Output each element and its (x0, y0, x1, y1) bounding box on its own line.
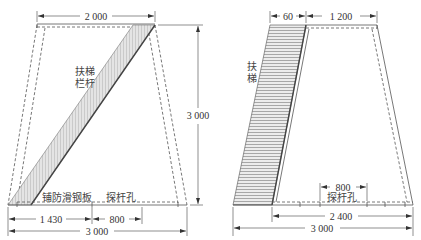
dim-60-label: 60 (283, 11, 293, 22)
dim-right-top: 60 1 200 (270, 11, 377, 24)
dim-1200-label: 1 200 (330, 11, 353, 22)
dim-left-bottom: 3 000 (9, 207, 187, 237)
right-view-right-leg (372, 25, 413, 205)
label-ladder-rail-2: 栏杆 (75, 77, 95, 89)
left-view: 2 000 3 000 1 430 800 3 000 (8, 11, 209, 237)
label-anti-slip-plate: 铺防滑钢板 (42, 191, 92, 203)
right-top-rail (306, 25, 377, 29)
dim-right-bottom-label: 3 000 (311, 223, 334, 234)
right-view: 800 探杆孔 60 1 200 2 400 3 00 (233, 11, 413, 237)
left-base (8, 202, 187, 207)
right-leg (148, 25, 187, 205)
dim-right-3000: 3 000 (233, 207, 412, 236)
dim-right-2400: 2 400 (272, 207, 413, 236)
ladder-side (233, 25, 306, 205)
label-ladder-2: 梯 (247, 72, 257, 84)
dim-left-top: 2 000 (37, 11, 155, 23)
label-probe-hole-left: 探杆孔 (106, 191, 136, 203)
dim-2400-label: 2 400 (330, 211, 353, 222)
label-ladder-1: 扶 (247, 60, 257, 72)
dim-left-top-label: 2 000 (85, 11, 108, 22)
label-probe-hole-right: 探杆孔 (327, 191, 357, 203)
dim-800-right-label: 800 (336, 182, 351, 193)
dim-left-bottom-segments: 1 430 800 (8, 207, 142, 236)
ladder-band (8, 25, 155, 205)
dim-1430-label: 1 430 (40, 214, 63, 225)
dim-left-bottom-label: 3 000 (86, 226, 109, 237)
diagram-canvas: 2 000 3 000 1 430 800 3 000 (0, 0, 421, 240)
dim-800-left-label: 800 (110, 214, 125, 225)
dim-left-height-label: 3 000 (187, 110, 210, 121)
label-ladder-rail-1: 扶梯 (75, 65, 95, 77)
dim-left-height: 3 000 (158, 25, 209, 205)
